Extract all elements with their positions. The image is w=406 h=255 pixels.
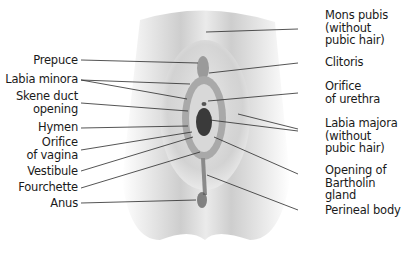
label-fourchette: Fourchette (18, 181, 78, 194)
label-opening-of-bartholin-gland: Opening of Bartholin gland (325, 164, 386, 202)
label-labia-majora: Labia majora (without pubic hair) (325, 117, 398, 155)
label-perineal-body: Perineal body (325, 204, 401, 217)
label-hymen: Hymen (38, 121, 78, 134)
label-prepuce: Prepuce (33, 54, 78, 67)
label-skene-duct-opening: Skene duct opening (16, 90, 78, 115)
label-orifice-of-urethra: Orifice of urethra (325, 80, 380, 105)
label-orifice-of-vagina: Orifice of vagina (26, 136, 78, 161)
label-anus: Anus (50, 197, 78, 210)
anatomy-diagram: Prepuce Labia minora Skene duct opening … (0, 0, 406, 255)
label-mons-pubis: Mons pubis (without pubic hair) (325, 9, 388, 47)
label-vestibule: Vestibule (27, 165, 78, 178)
label-labia-minora: Labia minora (5, 73, 78, 86)
label-clitoris: Clitoris (325, 56, 363, 69)
